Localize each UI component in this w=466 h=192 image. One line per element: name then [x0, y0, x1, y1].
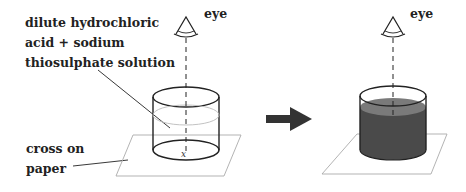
label-cross-line1: cross on	[26, 141, 84, 156]
label-cross-line2: paper	[26, 161, 67, 176]
paper-left	[116, 135, 241, 176]
beaker-right	[360, 86, 426, 160]
eye-icon-right	[381, 17, 405, 37]
label-solution-line2: acid + sodium	[25, 35, 125, 50]
cross-mark: x	[181, 149, 186, 159]
eye-icon-left	[174, 17, 198, 37]
eye-label-left: eye	[204, 6, 227, 21]
eye-label-right: eye	[410, 6, 433, 21]
label-solution-line3: thiosulphate solution	[25, 55, 175, 70]
arrow-icon	[266, 107, 312, 131]
cross-leader-line	[73, 160, 128, 166]
experiment-diagram: dilute hydrochloric acid + sodium thiosu…	[0, 0, 466, 192]
solution-leader-line	[98, 70, 170, 128]
right-setup: eye	[322, 6, 447, 174]
left-setup: x eye	[116, 6, 241, 176]
label-solution-line1: dilute hydrochloric	[25, 15, 160, 30]
